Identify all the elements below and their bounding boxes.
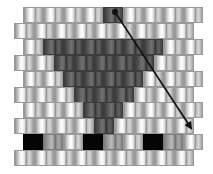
thread-start-dot-icon bbox=[112, 9, 118, 15]
thread-path-arrow bbox=[0, 0, 213, 174]
arrow-line bbox=[115, 12, 191, 128]
bead-pattern-diagram bbox=[0, 0, 213, 174]
